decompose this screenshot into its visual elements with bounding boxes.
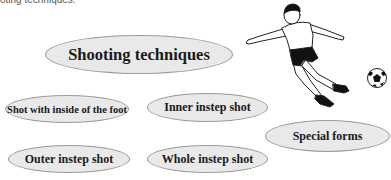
node-label: Shot with inside of the foot [7,104,127,115]
node-label: Whole instep shot [162,152,253,167]
shooting-techniques-diagram: oting techniques: Shooting techniques Sh… [0,0,391,180]
player-figure-icon [246,4,349,107]
soccer-ball-icon [368,69,387,88]
node-label: Inner instep shot [164,100,250,115]
node-inner-instep: Inner instep shot [147,93,268,122]
node-whole-instep: Whole instep shot [147,145,268,173]
main-topic-ellipse: Shooting techniques [45,35,233,74]
node-label: Outer instep shot [25,152,113,167]
node-label: Special forms [293,129,363,144]
node-inside-foot: Shot with inside of the foot [5,95,129,123]
node-special-forms: Special forms [265,120,390,152]
main-topic-label: Shooting techniques [68,45,210,65]
caption-text: oting techniques: [0,0,76,5]
node-outer-instep: Outer instep shot [8,145,130,173]
